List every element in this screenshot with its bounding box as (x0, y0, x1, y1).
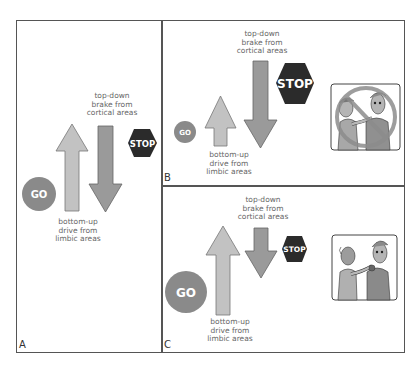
stop-label: STOP (277, 77, 313, 91)
stop-label: STOP (283, 245, 306, 254)
go-label: GO (179, 129, 191, 137)
go-label: GO (31, 189, 48, 200)
down-arrow-icon (89, 126, 122, 212)
bottom-up-caption: bottom-up drive from limbic areas (202, 151, 256, 177)
top-down-caption: top-down brake from cortical areas (233, 30, 291, 56)
panel-label-a: A (19, 339, 26, 350)
panel-b-graphics: GO STOP (174, 61, 400, 150)
up-arrow-icon (205, 96, 236, 146)
diagram-graphics: GO STOP GO STOP (0, 0, 419, 370)
top-down-caption: top-down brake from cortical areas (80, 92, 144, 118)
up-arrow-icon (56, 124, 88, 211)
go-label: GO (176, 286, 196, 300)
panel-a-graphics: GO STOP (22, 124, 157, 212)
up-arrow-icon (206, 226, 240, 315)
panel-c-graphics: GO STOP (165, 226, 397, 315)
down-arrow-icon (245, 228, 277, 278)
panel-label-c: C (164, 339, 171, 350)
panel-label-b: B (164, 172, 171, 183)
down-arrow-icon (244, 61, 277, 148)
top-down-caption: top-down brake from cortical areas (234, 196, 292, 222)
bottom-up-caption: bottom-up drive from limbic areas (203, 318, 257, 344)
stop-label: STOP (130, 139, 155, 149)
bottom-up-caption: bottom-up drive from limbic areas (48, 218, 108, 244)
